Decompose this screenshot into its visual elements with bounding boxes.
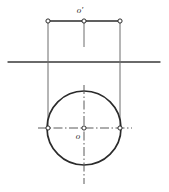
top-center-label: o — [76, 131, 81, 141]
top-center-point — [82, 126, 86, 130]
front-right-endpoint — [118, 19, 122, 23]
top-left-quadrant-point — [46, 126, 50, 130]
front-left-endpoint — [46, 19, 50, 23]
figure-canvas: o′ o — [0, 0, 169, 192]
projection-drawing: o′ o — [0, 0, 169, 192]
front-center-label: o′ — [77, 5, 85, 15]
front-center-point — [82, 19, 86, 23]
top-right-quadrant-point — [118, 126, 122, 130]
